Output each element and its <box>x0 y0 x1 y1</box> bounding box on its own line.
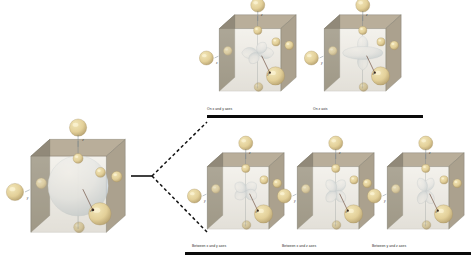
ligand-sphere-x <box>344 205 362 223</box>
scale-bar-dyz <box>366 252 471 255</box>
scale-bar-dx2y2 <box>207 115 317 118</box>
axis-label-y: y <box>204 199 206 203</box>
ligand-dot-front-top <box>422 164 430 172</box>
axis-label-z: z <box>366 13 368 17</box>
ligand-sphere-z <box>419 136 433 150</box>
axis-label-z: z <box>249 151 251 155</box>
scale-bar-dz2 <box>313 115 423 118</box>
caption-dz2: On z axis <box>313 108 328 111</box>
ligand-sphere-y <box>277 189 291 203</box>
axis-stub-y <box>293 194 297 196</box>
ligand-dot-front-top <box>332 164 340 172</box>
axis-label-x: x <box>345 210 347 214</box>
axis-label-y: x <box>216 61 218 65</box>
ligand-dot-front-right <box>272 38 280 46</box>
axis-label-z: z <box>261 13 263 17</box>
axis-label-y: y <box>384 199 386 203</box>
caption-dx2y2: On x and y axes <box>207 108 232 111</box>
ligand-dot-front-top <box>359 26 367 34</box>
ligand-sphere-z <box>239 136 253 150</box>
cube-unit-dx2y2: zxy <box>204 12 300 104</box>
cube-unit-dxz: zyx <box>282 150 378 242</box>
ligand-sphere-back-right <box>363 179 372 188</box>
ligand-sphere-x <box>434 205 452 223</box>
axis-stub-y <box>215 56 219 58</box>
ligand-dot-front-top <box>254 26 262 34</box>
axis-label-y: y <box>321 61 323 65</box>
ligand-sphere-z <box>356 0 370 12</box>
ligand-sphere-y <box>304 51 318 65</box>
ligand-dot-front-right <box>260 176 268 184</box>
axis-stub-y <box>383 194 387 196</box>
caption-dyz: Between y and z axes <box>372 245 406 248</box>
axis-label-z: z <box>339 151 341 155</box>
ligand-sphere-back-right <box>453 179 462 188</box>
cube-unit-dz2: zyx <box>309 12 405 104</box>
axis-label-x: x <box>435 210 437 214</box>
axis-label-x: x <box>255 210 257 214</box>
ligand-sphere-back-right <box>285 41 294 50</box>
axis-label-y: y <box>294 199 296 203</box>
caption-dxy: Between x and y axes <box>192 245 226 248</box>
axis-stub-y <box>320 56 324 58</box>
caption-dxz: Between x and z axes <box>282 245 316 248</box>
axis-label-x: x <box>372 72 374 76</box>
ligand-sphere-back-right <box>273 179 282 188</box>
ligand-dot-front-right <box>440 176 448 184</box>
axis-label-x: y <box>267 72 269 76</box>
axis-stub-y <box>203 194 207 196</box>
ligand-dot-front-right <box>350 176 358 184</box>
ligand-dot-front-right <box>377 38 385 46</box>
ligand-sphere-x <box>266 67 284 85</box>
ligand-sphere-y <box>367 189 381 203</box>
ligand-sphere-x <box>254 205 272 223</box>
ligand-sphere-z <box>329 136 343 150</box>
ligand-sphere-y <box>199 51 213 65</box>
cube-unit-dxy: zyx <box>192 150 288 242</box>
ligand-sphere-back-right <box>390 41 399 50</box>
ligand-sphere-z <box>251 0 265 12</box>
ligand-sphere-y <box>187 189 201 203</box>
cube-unit-dyz: zyx <box>372 150 468 242</box>
ligand-dot-front-top <box>242 164 250 172</box>
axis-label-z: z <box>429 151 431 155</box>
ligand-sphere-x <box>371 67 389 85</box>
figure-canvas: zyxzxyOn x and y axeszyxOn z axiszyxBetw… <box>0 0 475 274</box>
